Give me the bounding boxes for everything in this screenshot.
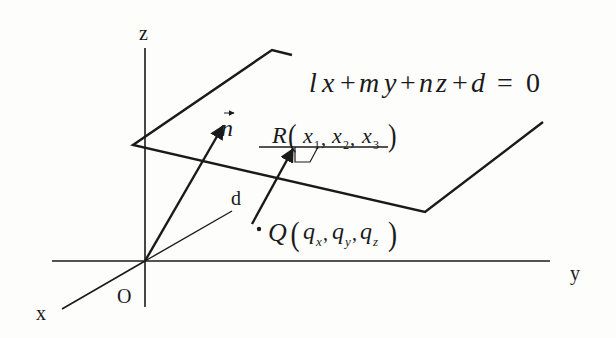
z-axis-label: z [139, 22, 148, 44]
svg-text:z: z [372, 234, 378, 249]
svg-text:q: q [303, 218, 315, 244]
svg-text:): ) [388, 117, 397, 153]
svg-text:+: + [340, 67, 356, 98]
x-axis-label: x [36, 302, 46, 324]
plane-distance-diagram: z y x O d n l x + m y + n z + d = 0 R ( … [0, 0, 616, 338]
svg-text:+: + [400, 67, 416, 98]
svg-text:d: d [471, 67, 486, 98]
normal-vector-label: n [221, 115, 233, 141]
svg-text:(: ( [288, 117, 297, 153]
svg-text:,: , [323, 222, 328, 244]
x-axis [62, 261, 145, 309]
svg-text:y: y [381, 67, 397, 98]
svg-text:x: x [315, 234, 322, 249]
svg-text:l: l [309, 67, 317, 98]
svg-text:x: x [302, 123, 313, 148]
y-axis-label: y [570, 262, 580, 285]
point-q-dot [257, 227, 261, 231]
point-r-label: R ( x 1 , x 2 , x 3 ) [271, 117, 397, 153]
svg-text:Q: Q [268, 218, 287, 247]
point-q-label: Q ( q x , q y , q z ) [268, 215, 397, 253]
plane-equation: l x + m y + n z + d = 0 [309, 67, 540, 98]
svg-text:R: R [271, 122, 287, 148]
svg-text:0: 0 [526, 67, 540, 98]
svg-text:n: n [419, 67, 433, 98]
normal-vector-arrow [145, 126, 223, 261]
svg-text:+: + [452, 67, 468, 98]
svg-text:1: 1 [314, 138, 320, 152]
svg-text:x: x [331, 123, 342, 148]
svg-text:(: ( [290, 215, 299, 253]
svg-text:m: m [359, 67, 379, 98]
svg-text:q: q [332, 218, 344, 244]
svg-text:x: x [321, 67, 335, 98]
svg-text:q: q [360, 218, 372, 244]
distance-line [145, 211, 232, 261]
svg-text:,: , [321, 127, 326, 149]
svg-text:z: z [435, 67, 447, 98]
diagram-canvas: z y x O d n l x + m y + n z + d = 0 R ( … [0, 0, 616, 338]
svg-text:=: = [497, 67, 513, 98]
svg-text:y: y [343, 234, 351, 249]
origin-label: O [117, 285, 131, 307]
svg-text:,: , [350, 127, 355, 149]
distance-label: d [231, 187, 241, 209]
svg-text:x: x [361, 123, 372, 148]
q-to-r-arrow [252, 149, 293, 224]
svg-text:2: 2 [343, 138, 349, 152]
svg-text:,: , [352, 222, 357, 244]
svg-text:3: 3 [373, 138, 379, 152]
svg-text:): ) [388, 215, 397, 253]
